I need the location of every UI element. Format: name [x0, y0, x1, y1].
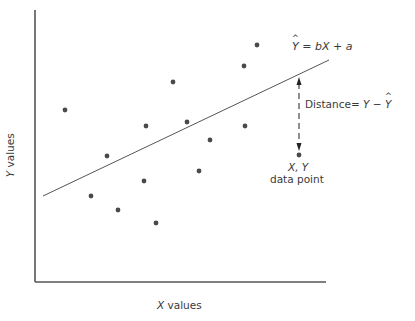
data-point	[243, 124, 248, 129]
data-points	[63, 43, 302, 226]
regression-diagram	[0, 0, 415, 321]
point-coords-label: X, Y	[288, 162, 308, 173]
data-point	[197, 169, 202, 174]
data-point	[242, 64, 247, 69]
axes	[35, 10, 326, 282]
data-point	[116, 208, 121, 213]
point-caption-label: data point	[270, 174, 324, 185]
data-point	[154, 221, 159, 226]
data-point	[297, 153, 302, 158]
arrow-up-icon	[297, 77, 302, 85]
data-point	[63, 108, 68, 113]
distance-label: Distance= Y − ^Y	[305, 99, 391, 110]
regression-equation-label: ^Y = bX + a	[292, 41, 352, 52]
distance-arrow	[297, 77, 302, 151]
y-hat-symbol: ^Y	[385, 99, 391, 110]
arrow-down-icon	[297, 143, 302, 151]
y-axis-label: Y values	[5, 133, 16, 177]
data-point	[208, 138, 213, 143]
data-point	[142, 179, 147, 184]
data-point	[255, 43, 260, 48]
data-point	[185, 120, 190, 125]
data-point	[89, 194, 94, 199]
y-hat-symbol: ^Y	[292, 41, 299, 52]
data-point	[144, 124, 149, 129]
data-point	[105, 154, 110, 159]
x-axis-label: X values	[157, 300, 202, 311]
data-point	[171, 80, 176, 85]
